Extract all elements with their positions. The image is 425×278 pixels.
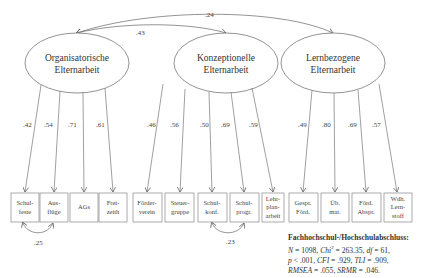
svg-text:Organisatorische: Organisatorische (45, 53, 109, 63)
fit-line-3: RMSEA = .055, SRMR = .046. (288, 266, 409, 276)
svg-text:stoff: stoff (392, 212, 405, 219)
svg-text:Abspr.: Abspr. (357, 208, 375, 215)
loading-schulprogr: .69 (221, 121, 230, 129)
svg-text:Förder-: Förder- (137, 199, 156, 206)
loading-foerd-abspr: .69 (348, 121, 357, 129)
indicator-lehrplanarbeit: Lehr- plan- arbeit (266, 195, 281, 219)
fit-title: Fachhochschul-/Hochschulabschluss: (288, 233, 409, 243)
svg-text:Schul-: Schul- (204, 199, 221, 206)
fit-line-1: N = 1098, Chi2 = 263.35, df = 61, (288, 243, 409, 256)
loading-foerderverein: .46 (147, 121, 156, 129)
svg-text:Aus-: Aus- (48, 199, 61, 206)
loading-wdh-lernstoff: .57 (372, 121, 381, 129)
svg-text:arbeit: arbeit (266, 212, 281, 219)
loading-schulfeste: .42 (23, 121, 32, 129)
svg-text:Elternarbeit: Elternarbeit (204, 65, 249, 75)
svg-text:Frei-: Frei- (107, 199, 120, 206)
svg-text:zeith: zeith (107, 208, 120, 215)
loading-ausfluege: .54 (44, 121, 53, 129)
indicator-ags: AGs (78, 203, 90, 210)
correlation-value-24: .24 (205, 11, 214, 19)
svg-text:Schul-: Schul- (236, 199, 253, 206)
loading-paths-konz (147, 84, 273, 192)
svg-text:konf.: konf. (205, 208, 219, 215)
model-fit-statistics: Fachhochschul-/Hochschulabschluss: N = 1… (288, 233, 409, 276)
svg-text:mat.: mat. (329, 208, 341, 215)
svg-text:Lehr-: Lehr- (266, 195, 280, 202)
svg-text:flüge: flüge (47, 208, 60, 215)
svg-text:.25: .25 (34, 239, 43, 247)
svg-text:verein: verein (139, 208, 156, 215)
latent-lernbezogene: Lernbezogene Elternarbeit (281, 33, 385, 93)
svg-text:gruppe: gruppe (171, 208, 189, 215)
svg-text:Üb.: Üb. (330, 199, 340, 206)
svg-text:Konzeptionelle: Konzeptionelle (197, 53, 255, 63)
loading-freizeit: .61 (96, 121, 105, 129)
loading-ueb-mat: .80 (322, 121, 331, 129)
svg-text:Elternarbeit: Elternarbeit (55, 65, 100, 75)
svg-text:Förd.: Förd. (296, 208, 310, 215)
factor-correlation-24: .24 (77, 11, 333, 33)
svg-text:feste: feste (19, 208, 31, 215)
svg-text:progr.: progr. (236, 208, 252, 215)
svg-text:AGs: AGs (78, 203, 90, 210)
loading-ags: .71 (68, 121, 77, 129)
svg-text:plan-: plan- (266, 203, 279, 210)
svg-text:Lernbezogene: Lernbezogene (306, 53, 360, 63)
svg-text:Wdh.: Wdh. (391, 195, 406, 202)
loading-paths-org (25, 85, 113, 192)
indicator-wdh-lernstoff: Wdh. Lern- stoff (391, 195, 406, 219)
loading-gespr-foerd: .49 (298, 121, 307, 129)
svg-text:Lern-: Lern- (391, 203, 405, 210)
fit-line-2: p < .001, CFI = .929, TLI = .909, (288, 256, 409, 266)
svg-text:Steuer-: Steuer- (171, 199, 190, 206)
latent-konzeptionelle: Konzeptionelle Elternarbeit (174, 33, 278, 93)
loading-steuergruppe: .56 (170, 121, 179, 129)
svg-text:.23: .23 (226, 238, 235, 246)
svg-text:Gespr.: Gespr. (295, 199, 312, 206)
correlation-value-43: .43 (136, 29, 145, 37)
svg-text:Förd.: Förd. (359, 199, 373, 206)
latent-organisatorische: Organisatorische Elternarbeit (25, 33, 129, 93)
residual-correlation-schulfeste-ausfluege: .25 (23, 223, 53, 247)
residual-correlation-schulkonf-schulprogr: .23 (212, 223, 244, 246)
svg-text:Schul-: Schul- (17, 199, 34, 206)
loading-paths-lern (303, 84, 397, 192)
loading-schulkonf: .50 (200, 121, 209, 129)
svg-text:Elternarbeit: Elternarbeit (311, 65, 356, 75)
loading-lehrplanarbeit: .59 (249, 121, 258, 129)
